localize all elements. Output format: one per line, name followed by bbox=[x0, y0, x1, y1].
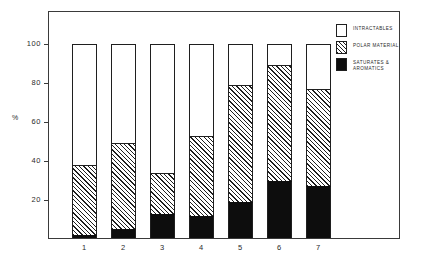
bar-7-segment-polar bbox=[306, 89, 331, 187]
bar-6-segment-saturates bbox=[267, 181, 292, 240]
bar-3-segment-intractables bbox=[150, 44, 175, 173]
x-tick-label-6: 6 bbox=[267, 243, 291, 252]
x-tick-label-3: 3 bbox=[150, 243, 174, 252]
white-swatch-icon bbox=[336, 24, 347, 37]
bar-6-segment-intractables bbox=[267, 44, 292, 65]
bar-4-segment-saturates bbox=[189, 216, 214, 239]
bar-5-segment-intractables bbox=[228, 44, 253, 85]
bar-3-segment-saturates bbox=[150, 214, 175, 239]
bar-7-segment-intractables bbox=[306, 44, 331, 89]
legend-label-intractables: INTRACTABLES bbox=[353, 26, 393, 32]
chart-legend: INTRACTABLES POLAR MATERIAL SATURATES & … bbox=[336, 24, 414, 75]
y-tick-label-100: 100 bbox=[16, 39, 41, 48]
legend-item-saturates-aromatics: SATURATES & AROMATICS bbox=[336, 58, 414, 75]
hatched-swatch-icon bbox=[336, 41, 347, 54]
bar-1-segment-intractables bbox=[72, 44, 97, 165]
bar-5-segment-polar bbox=[228, 85, 253, 202]
x-tick-label-4: 4 bbox=[189, 243, 213, 252]
bar-2-segment-intractables bbox=[111, 44, 136, 143]
y-tick-label-40: 40 bbox=[16, 156, 41, 165]
bar-5-segment-saturates bbox=[228, 202, 253, 239]
x-tick-label-2: 2 bbox=[111, 243, 135, 252]
x-tick-label-1: 1 bbox=[72, 243, 96, 252]
bar-6-segment-polar bbox=[267, 65, 292, 180]
x-tick-label-7: 7 bbox=[306, 243, 330, 252]
legend-label-saturates-aromatics: SATURATES & AROMATICS bbox=[353, 60, 389, 72]
bar-2-segment-polar bbox=[111, 143, 136, 229]
chart-figure: % 100 80 60 40 20 bbox=[0, 0, 421, 266]
bar-7-segment-saturates bbox=[306, 186, 331, 239]
legend-label-polar-material: POLAR MATERIAL bbox=[353, 43, 399, 49]
x-tick-label-5: 5 bbox=[228, 243, 252, 252]
bar-1-segment-polar bbox=[72, 165, 97, 235]
x-axis-baseline bbox=[48, 238, 400, 239]
bar-4-segment-polar bbox=[189, 136, 214, 216]
legend-item-intractables: INTRACTABLES bbox=[336, 24, 414, 41]
black-swatch-icon bbox=[336, 58, 347, 71]
bar-4-segment-intractables bbox=[189, 44, 214, 136]
y-tick-label-20: 20 bbox=[16, 195, 41, 204]
legend-item-polar-material: POLAR MATERIAL bbox=[336, 41, 414, 58]
bar-3-segment-polar bbox=[150, 173, 175, 214]
y-tick-label-80: 80 bbox=[16, 78, 41, 87]
y-tick-label-60: 60 bbox=[16, 117, 41, 126]
